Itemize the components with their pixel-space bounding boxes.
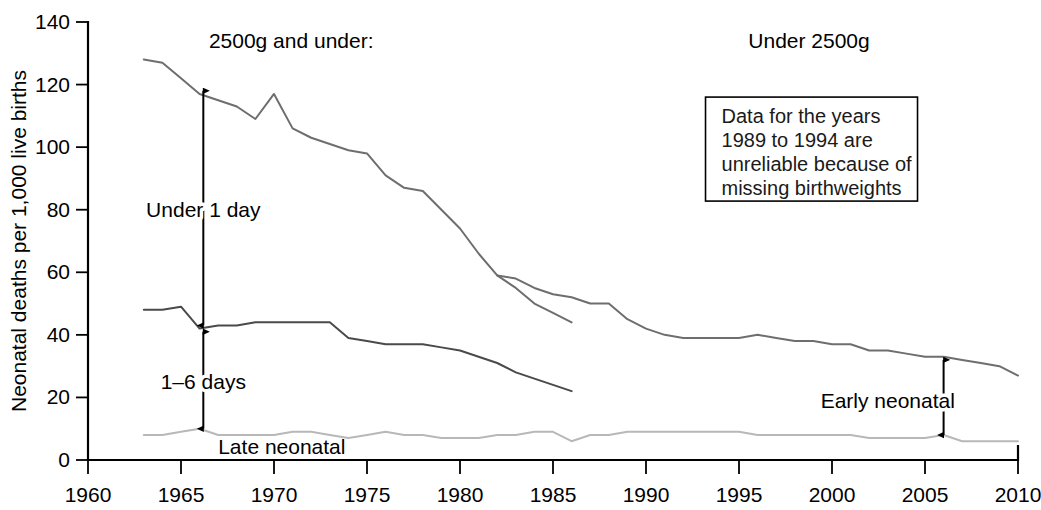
chart-canvas: 0204060801001201401960196519701975198019…: [0, 0, 1041, 510]
y-tick-label-140: 140: [35, 10, 70, 33]
note-box-line-1: 1989 to 1994 are: [722, 129, 873, 151]
note-box-line-3: missing birthweights: [722, 177, 902, 199]
y-tick-label-60: 60: [47, 260, 70, 283]
series-line-under-1-day-seg-0: [144, 60, 572, 323]
x-tick-label-1975: 1975: [344, 483, 391, 506]
x-tick-label-2000: 2000: [809, 483, 856, 506]
y-tick-label-0: 0: [58, 448, 70, 471]
x-tick-label-2005: 2005: [902, 483, 949, 506]
y-tick-label-120: 120: [35, 73, 70, 96]
annotation-band-1to6: 1–6 days: [161, 370, 246, 393]
note-box-group: Data for the years1989 to 1994 areunreli…: [706, 97, 918, 201]
neonatal-mortality-chart: 0204060801001201401960196519701975198019…: [0, 0, 1041, 510]
y-tick-label-20: 20: [47, 385, 70, 408]
x-tick-label-1995: 1995: [716, 483, 763, 506]
axes-group: 0204060801001201401960196519701975198019…: [7, 10, 1041, 506]
note-box-line-2: unreliable because of: [722, 153, 913, 175]
annotation-group-left: 2500g and under:: [209, 29, 374, 52]
x-tick-label-1985: 1985: [530, 483, 577, 506]
x-tick-label-1980: 1980: [437, 483, 484, 506]
y-tick-label-40: 40: [47, 323, 70, 346]
annotation-group-right: Under 2500g: [748, 29, 869, 52]
series-line-under-1-day-seg-1: [497, 275, 1018, 375]
x-tick-label-1965: 1965: [158, 483, 205, 506]
annotation-band-late: Late neonatal: [218, 435, 345, 458]
annotation-band-early: Early neonatal: [821, 389, 955, 412]
y-tick-label-80: 80: [47, 198, 70, 221]
y-tick-label-100: 100: [35, 135, 70, 158]
annotation-labels-group: 2500g and under:Under 2500gUnder 1 day1–…: [146, 29, 955, 459]
x-tick-label-2010: 2010: [995, 483, 1041, 506]
note-box-line-0: Data for the years: [722, 105, 881, 127]
x-tick-label-1990: 1990: [623, 483, 670, 506]
x-tick-label-1970: 1970: [251, 483, 298, 506]
y-axis-title: Neonatal deaths per 1,000 live births: [7, 70, 30, 412]
x-tick-label-1960: 1960: [65, 483, 112, 506]
annotation-band-under1: Under 1 day: [146, 198, 261, 221]
